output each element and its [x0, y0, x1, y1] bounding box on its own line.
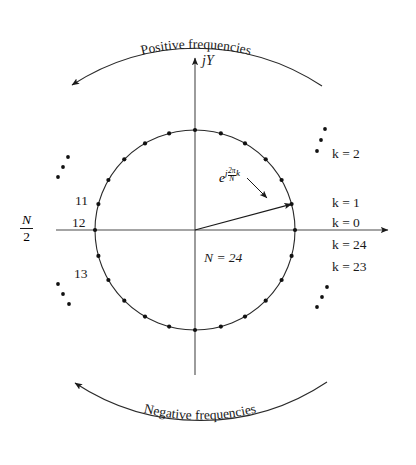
sample-point	[93, 228, 97, 232]
phasor-leader-line	[247, 178, 267, 198]
sample-point	[293, 228, 297, 232]
phasor-exp-denominator: N	[228, 175, 236, 183]
sample-point	[264, 157, 268, 161]
point-label-12: 12	[72, 216, 86, 230]
n-value-annotation: N = 24	[204, 251, 242, 265]
half-n-denominator: 2	[20, 230, 33, 244]
sample-point	[280, 278, 284, 282]
sample-point	[143, 141, 147, 145]
sample-point	[289, 254, 293, 258]
sample-point	[289, 202, 293, 206]
positive-frequencies-arc	[72, 48, 322, 86]
n-value-text: N = 24	[204, 250, 242, 265]
point-label-k23: k = 23	[332, 260, 367, 274]
ellipsis-lower-right	[315, 285, 329, 309]
half-n-numerator: N	[20, 213, 33, 227]
sample-point	[167, 324, 171, 328]
sample-point	[219, 324, 223, 328]
sample-point	[96, 254, 100, 258]
ellipsis-upper-left	[56, 155, 70, 179]
ellipsis-upper-right	[315, 127, 327, 153]
phasor-exponent: j2πNk	[225, 168, 240, 178]
phasor-exp-fraction: 2πN	[228, 167, 236, 183]
point-label-11: 11	[75, 194, 88, 208]
phasor-exp-k: k	[236, 168, 240, 178]
half-n-fraction: N 2	[20, 213, 33, 244]
sample-point	[96, 202, 100, 206]
point-label-13: 13	[74, 267, 88, 281]
sample-point	[143, 315, 147, 319]
axis-label-jy: jY	[202, 54, 214, 68]
sample-point	[106, 278, 110, 282]
negative-frequencies-label: Negative frequencies	[143, 401, 258, 423]
unit-circle-dft-figure: Positive frequencies Negative frequencie…	[0, 0, 416, 465]
sample-point	[280, 178, 284, 182]
phasor-expression-label: ej2πNk	[219, 167, 240, 185]
figure-canvas: Positive frequencies Negative frequencie…	[0, 0, 416, 465]
sample-point	[122, 157, 126, 161]
point-label-k1: k = 1	[332, 196, 360, 210]
sample-point	[219, 131, 223, 135]
phasor-vector	[195, 204, 292, 230]
sample-point	[167, 131, 171, 135]
sample-point	[106, 178, 110, 182]
sample-point	[243, 141, 247, 145]
point-label-k24: k = 24	[332, 238, 367, 252]
sample-point	[122, 299, 126, 303]
ellipsis-lower-left	[56, 282, 71, 306]
positive-frequencies-label: Positive frequencies	[139, 36, 253, 57]
point-label-k2: k = 2	[332, 147, 360, 161]
sample-point	[193, 328, 197, 332]
point-label-k0: k = 0	[332, 216, 360, 230]
sample-point	[264, 299, 268, 303]
sample-point	[193, 128, 197, 132]
sample-point	[243, 315, 247, 319]
